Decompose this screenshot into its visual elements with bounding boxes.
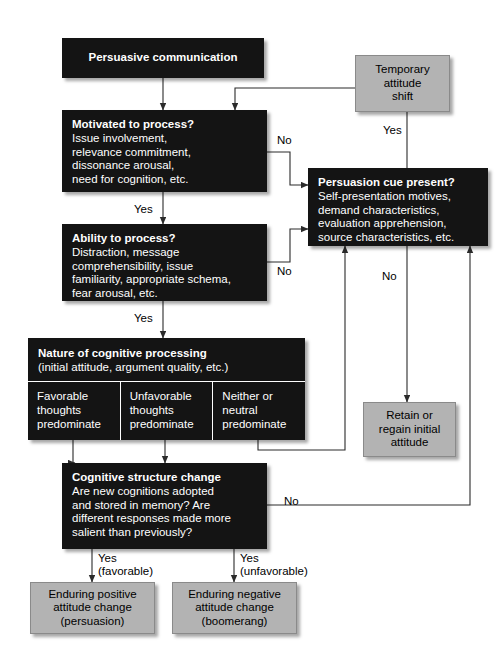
edge-temporary-shift-to-motivated [235,88,355,110]
node-motivated-to-process: Motivated to process? Issue involvement,… [62,110,267,192]
node-nature-of-cognitive-processing: Nature of cognitive processing (initial … [28,338,305,440]
edge-label-cue-no: No [382,270,397,283]
node-enduring-negative-text: Enduring negativeattitude change(boomera… [188,588,281,629]
node-ability-to-process: Ability to process? Distraction, message… [62,224,267,301]
node-cognitive-structure-change: Cognitive structure change Are new cogni… [62,463,267,549]
node-motivated-title: Motivated to process? [72,118,257,132]
node-persuasive-communication-title: Persuasive communication [89,51,238,65]
node-temporary-attitude-shift-text: Temporaryattitudeshift [375,63,429,104]
node-persuasion-cue-body: Self-presentation motives,demand charact… [318,190,478,245]
edge-favorable-to-structure [73,440,75,463]
edge-ability-no-to-cue [267,229,308,262]
edge-label-structure-yes-favorable: Yes(favorable) [98,552,153,578]
node-retain-or-regain-initial-attitude: Retain orregain initialattitude [363,402,456,457]
edge-label-cue-yes: Yes [383,124,402,137]
node-temporary-attitude-shift: Temporaryattitudeshift [355,55,450,112]
node-nature-column-favorable: Favorablethoughtspredominate [28,382,120,440]
node-persuasion-cue-title: Persuasion cue present? [318,176,478,190]
node-persuasive-communication: Persuasive communication [62,38,264,78]
node-nature-columns: Favorablethoughtspredominate Unfavorable… [28,381,305,440]
edge-label-structure-yes-unfavorable: Yes(unfavorable) [240,552,308,578]
node-cognitive-structure-title: Cognitive structure change [72,471,257,485]
node-nature-head: Nature of cognitive processing (initial … [28,338,305,381]
node-ability-body: Distraction, messagecomprehensibility, i… [72,246,257,301]
node-ability-title: Ability to process? [72,232,257,246]
node-enduring-positive-text: Enduring positiveattitude change(persuas… [48,588,136,629]
node-persuasion-cue-present: Persuasion cue present? Self-presentatio… [308,168,488,246]
node-cognitive-structure-body: Are new cognitions adoptedand stored in … [72,485,257,540]
edge-label-motivated-no: No [277,134,292,147]
edge-label-motivated-yes: Yes [134,203,153,216]
node-nature-column-unfavorable: Unfavorablethoughtspredominate [120,382,213,440]
edge-motivated-no-to-cue [267,152,308,185]
flowchart-canvas: Persuasive communication Temporaryattitu… [0,0,500,669]
node-nature-column-neutral: Neither orneutralpredominate [212,382,305,440]
edge-label-structure-no: No [284,495,299,508]
node-retain-text: Retain orregain initialattitude [379,409,440,450]
node-enduring-negative-attitude-change: Enduring negativeattitude change(boomera… [172,582,297,634]
node-enduring-positive-attitude-change: Enduring positiveattitude change(persuas… [30,582,155,634]
edge-label-ability-no: No [277,265,292,278]
edge-label-ability-yes: Yes [134,312,153,325]
node-motivated-body: Issue involvement,relevance commitment,d… [72,132,257,187]
node-nature-title: Nature of cognitive processing [38,346,295,360]
node-nature-body: (initial attitude, argument quality, etc… [38,360,295,374]
